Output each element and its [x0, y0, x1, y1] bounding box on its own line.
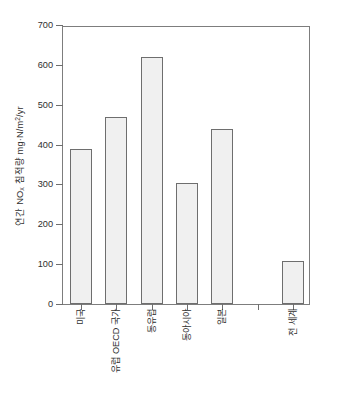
- y-axis-tick-mark: [56, 304, 63, 305]
- y-axis-tick-mark: [56, 65, 63, 66]
- y-axis-title: 연간 NOx 침적량 mg·N/m2/yr: [8, 26, 30, 306]
- y-axis-tick-label: 100: [38, 259, 53, 269]
- y-axis-tick-mark: [56, 224, 63, 225]
- x-axis-label: 일본: [214, 309, 228, 325]
- x-axis-label-cell: 전 세계: [275, 307, 310, 403]
- y-axis-tick-label: 400: [38, 140, 53, 150]
- bar-slot: [176, 25, 198, 304]
- x-axis-label-cell: 미국: [62, 307, 97, 403]
- bar-동유럽: [141, 57, 163, 304]
- bar-일본: [211, 129, 233, 304]
- y-axis-tick-label: 200: [38, 219, 53, 229]
- y-axis-title-text: 연간 NOx 침적량 mg·N/m2/yr: [12, 106, 26, 225]
- x-axis-label: 미국: [73, 309, 87, 325]
- y-axis-tick-label: 600: [38, 60, 53, 70]
- y-axis-title-suffix: /yr: [15, 106, 25, 117]
- y-axis-tick-label: 0: [48, 299, 53, 309]
- y-axis-tick-mark: [56, 105, 63, 106]
- chart-figure: 연간 NOx 침적량 mg·N/m2/yr 010020030040050060…: [0, 0, 349, 405]
- bar-slot: [105, 25, 127, 304]
- y-axis-title-prefix: 연간 NO: [15, 191, 25, 226]
- y-axis-tick-mark: [56, 145, 63, 146]
- bar-전 세계: [282, 261, 304, 304]
- bar-미국: [70, 149, 92, 304]
- y-axis-tick-mark: [56, 184, 63, 185]
- y-axis-tick-mark: [56, 264, 63, 265]
- y-axis-tick-label: 500: [38, 100, 53, 110]
- bar-slot: [211, 25, 233, 304]
- x-axis-label: 동유럽: [144, 309, 158, 333]
- y-axis-tick-mark: [56, 25, 63, 26]
- plot-area: 0100200300400500600700: [62, 26, 310, 305]
- y-axis-title-subscript: x: [18, 187, 25, 191]
- y-axis-tick-label: 300: [38, 179, 53, 189]
- bar-slot: [282, 25, 304, 304]
- bar-slot: [247, 25, 269, 304]
- y-axis-title-mid: 침적량 mg·N/m: [15, 121, 25, 187]
- x-axis-label: 전 세계: [285, 309, 299, 336]
- x-axis-label: 유럽 OECD 국가: [108, 309, 122, 373]
- bar-series: [63, 27, 309, 304]
- bar-slot: [141, 25, 163, 304]
- bar-slot: [70, 25, 92, 304]
- x-axis-label: 동아시아: [179, 309, 193, 341]
- y-axis-tick-label: 700: [38, 20, 53, 30]
- bar-유럽 OECD 국가: [105, 117, 127, 304]
- bar-동아시아: [176, 183, 198, 304]
- y-axis-title-superscript: 2: [14, 117, 21, 121]
- x-axis-label-cell: 동유럽: [133, 307, 168, 403]
- x-axis-label-cell: 동아시아: [168, 307, 203, 403]
- x-axis-label-cell: 유럽 OECD 국가: [97, 307, 132, 403]
- x-axis-label-cell: 일본: [204, 307, 239, 403]
- x-axis-labels: 미국유럽 OECD 국가동유럽동아시아일본전 세계: [62, 307, 310, 403]
